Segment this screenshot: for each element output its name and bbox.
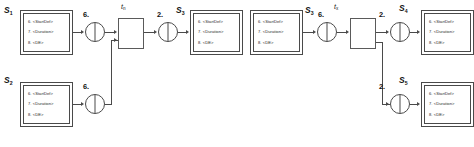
state-line-startdef: 6. <StartDef> <box>429 20 467 24</box>
arrow-tx-to-c6 <box>386 102 389 106</box>
state-label-s1: S1 <box>4 6 13 15</box>
state-line-duration: 7. <Duration> <box>198 30 236 34</box>
arrow-s1-to-c1 <box>81 30 84 34</box>
state-box-s5[interactable]: 6. <StartDef> 7. <Duration> 8. <DE> <box>421 82 474 127</box>
state-label-s3a: S3 <box>176 6 185 15</box>
state-line-duration: 7. <Duration> <box>28 102 66 106</box>
arrow-c3-to-s3a <box>186 30 189 34</box>
state-label-s3b: S3 <box>305 6 314 15</box>
connector-label-c3: 2. <box>157 11 163 18</box>
wire-c2-up <box>111 40 112 104</box>
state-line-de: 8. <DE> <box>258 41 296 45</box>
state-line-de: 8. <DE> <box>28 41 66 45</box>
state-label-s4: S4 <box>399 4 408 13</box>
arrow-tn-to-c3 <box>154 30 157 34</box>
connector-circle-c6[interactable] <box>390 94 410 114</box>
state-line-de: 8. <DE> <box>198 41 236 45</box>
connector-label-c5: 2. <box>379 11 385 18</box>
state-line-startdef: 6. <StartDef> <box>28 92 66 96</box>
state-box-s1[interactable]: 6. <StartDef> 7. <Duration> 8. <DE> <box>20 10 73 55</box>
state-line-startdef: 6. <StartDef> <box>28 20 66 24</box>
state-box-s2[interactable]: 6. <StartDef> 7. <Duration> 8. <DE> <box>20 82 73 127</box>
connector-circle-c3[interactable] <box>158 22 178 42</box>
state-box-s3a[interactable]: 6. <StartDef> 7. <Duration> 8. <DE> <box>190 10 243 55</box>
state-label-s2: S2 <box>4 76 13 85</box>
transition-box-tn[interactable] <box>118 18 144 49</box>
state-line-startdef: 6. <StartDef> <box>429 92 467 96</box>
state-line-startdef: 6. <StartDef> <box>258 20 296 24</box>
transition-box-tx[interactable] <box>350 18 376 49</box>
arrow-tx-to-c5 <box>386 30 389 34</box>
arrow-c6-to-s5 <box>417 102 420 106</box>
state-line-duration: 7. <Duration> <box>258 30 296 34</box>
arrow-c5-to-s4 <box>417 30 420 34</box>
arrow-c4-to-tx <box>346 30 349 34</box>
connector-circle-c4[interactable] <box>317 22 337 42</box>
arrow-c2-to-tn <box>114 38 117 42</box>
wire-tx-down <box>382 42 383 104</box>
connector-label-c4: 6. <box>318 11 324 18</box>
state-box-s3b[interactable]: 6. <StartDef> 7. <Duration> 8. <DE> <box>250 10 303 55</box>
state-line-duration: 7. <Duration> <box>429 102 467 106</box>
connector-label-c6: 2. <box>379 83 385 90</box>
arrow-s3b-to-c4 <box>313 30 316 34</box>
state-line-de: 8. <DE> <box>28 113 66 117</box>
arrow-s2-to-c2 <box>81 102 84 106</box>
state-line-duration: 7. <Duration> <box>28 30 66 34</box>
connector-circle-c2[interactable] <box>85 94 105 114</box>
state-line-startdef: 6. <StartDef> <box>198 20 236 24</box>
transition-label-tx: tx <box>334 3 338 11</box>
state-line-duration: 7. <Duration> <box>429 30 467 34</box>
connector-label-c2: 6. <box>83 83 89 90</box>
connector-circle-c5[interactable] <box>390 22 410 42</box>
transition-label-tn: tn <box>121 3 126 11</box>
state-label-s5: S5 <box>399 76 408 85</box>
arrow-c1-to-tn <box>114 30 117 34</box>
state-box-s4[interactable]: 6. <StartDef> 7. <Duration> 8. <DE> <box>421 10 474 55</box>
connector-label-c1: 6. <box>83 11 89 18</box>
state-line-de: 8. <DE> <box>429 113 467 117</box>
connector-circle-c1[interactable] <box>85 22 105 42</box>
state-line-de: 8. <DE> <box>429 41 467 45</box>
wire-c2-right <box>105 104 112 105</box>
